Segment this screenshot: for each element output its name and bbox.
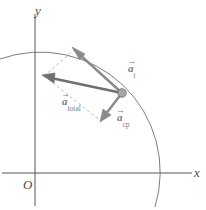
origin-label: O: [23, 178, 32, 191]
physics-vector-figure: →at →atotal →acp y x O: [0, 0, 206, 210]
vector-arrow-accent-a-t: →: [127, 57, 136, 66]
particle-marker: [118, 89, 126, 97]
vector-label-a-tangential: →at: [128, 59, 136, 78]
vector-label-a-centripetal: →acp: [117, 108, 130, 127]
y-axis-label: y: [35, 4, 41, 17]
vector-a-tangential: [72, 47, 122, 93]
vector-label-subscript-a-t: t: [134, 71, 136, 80]
vector-arrow-accent-a-total: →: [61, 90, 70, 99]
vector-arrow-accent-a-cp: →: [116, 106, 125, 115]
x-axis-label: x: [194, 166, 200, 179]
vector-label-a-total: →atotal: [62, 92, 81, 111]
vector-label-subscript-a-total: total: [68, 104, 81, 113]
vector-label-subscript-a-cp: cp: [123, 120, 130, 129]
